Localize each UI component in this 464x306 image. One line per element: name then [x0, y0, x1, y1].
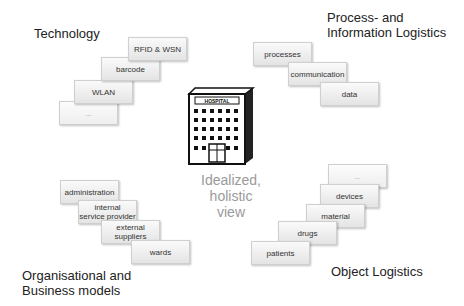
hospital-icon: HOSPITAL — [185, 86, 257, 166]
object-title: Object Logistics — [331, 264, 423, 279]
technology-item-more: ... — [59, 101, 118, 125]
organisation-title: Organisational and Business models — [22, 268, 131, 298]
technology-item-rfid-wsn: RFID & WSN — [128, 37, 187, 61]
technology-title: Technology — [34, 26, 100, 41]
technology-item-wlan: WLAN — [74, 80, 133, 104]
process-title: Process- and Information Logistics — [327, 10, 446, 40]
process-item-data: data — [320, 82, 379, 106]
hospital-sign: HOSPITAL — [205, 98, 230, 104]
organisation-item-wards: wards — [131, 240, 190, 264]
object-item-patients: patients — [251, 241, 310, 265]
center-label: Idealized, holistic view — [186, 172, 276, 220]
